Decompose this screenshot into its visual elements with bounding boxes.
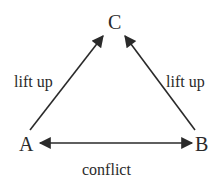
edge-a-b-label: conflict xyxy=(82,162,131,178)
node-a-label: A xyxy=(19,134,33,154)
node-c-label: C xyxy=(108,12,121,32)
edge-a-c-label: lift up xyxy=(14,74,53,90)
edge-b-c-label: lift up xyxy=(166,74,205,90)
node-b-label: B xyxy=(195,134,208,154)
diagram-canvas: C A B lift up lift up conflict xyxy=(0,0,222,179)
